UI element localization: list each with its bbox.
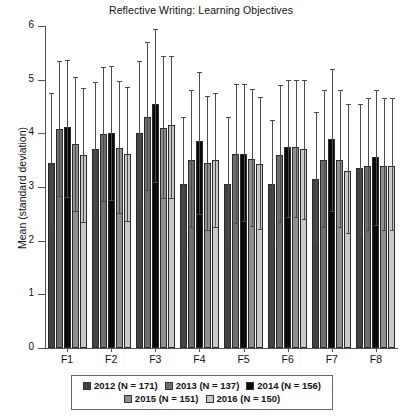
error-bar-cap: [278, 222, 283, 223]
error-bar: [59, 61, 60, 196]
legend-label: 2013 (N = 137): [176, 379, 240, 392]
error-bar-cap: [205, 96, 210, 97]
error-bar-cap: [270, 246, 275, 247]
error-bar-cap: [73, 211, 78, 212]
y-axis-tick-label: 0: [4, 341, 34, 352]
legend-label: 2014 (N = 156): [257, 379, 321, 392]
error-bar-cap: [81, 88, 86, 89]
legend-label: 2015 (N = 151): [135, 392, 199, 405]
error-bar-cap: [213, 227, 218, 228]
error-bar-cap: [286, 217, 291, 218]
error-bar: [384, 98, 385, 229]
error-bar: [103, 67, 104, 201]
error-bar-cap: [65, 60, 70, 61]
y-axis-tick-label: 5: [4, 73, 34, 84]
legend-item[interactable]: 2013 (N = 137): [165, 379, 240, 392]
error-bar: [280, 85, 281, 222]
x-axis-tick-label: F8: [356, 353, 396, 365]
y-axis-tick-label: 6: [4, 19, 34, 30]
error-bar-cap: [258, 97, 263, 98]
error-bar-cap: [169, 56, 174, 57]
error-bar-cap: [330, 211, 335, 212]
error-bar-cap: [137, 200, 142, 201]
error-bar-cap: [382, 98, 387, 99]
error-bar-cap: [197, 214, 202, 215]
error-bar-cap: [382, 230, 387, 231]
error-bar: [252, 89, 253, 226]
x-axis-tick: [155, 348, 156, 352]
legend-item[interactable]: 2014 (N = 156): [246, 379, 321, 392]
error-bar-cap: [73, 77, 78, 78]
error-bar: [51, 93, 52, 230]
x-axis-line: [45, 348, 398, 349]
x-axis-tick-label: F6: [268, 353, 308, 365]
legend-label: 2012 (N = 171): [94, 379, 158, 392]
error-bar-cap: [358, 233, 363, 234]
error-bar: [288, 80, 289, 217]
error-bar-cap: [93, 214, 98, 215]
y-axis-tick-label: 1: [4, 287, 34, 298]
error-bar-cap: [145, 42, 150, 43]
legend-item[interactable]: 2015 (N = 151): [124, 392, 199, 405]
error-bar-cap: [374, 90, 379, 91]
error-bar-cap: [145, 190, 150, 191]
x-axis-tick-label: F2: [91, 353, 131, 365]
error-bar: [340, 90, 341, 227]
error-bar: [244, 84, 245, 221]
x-axis-tick: [332, 348, 333, 352]
error-bar: [111, 66, 112, 200]
error-bar: [392, 98, 393, 229]
error-bar: [324, 90, 325, 227]
error-bar: [304, 80, 305, 220]
legend-swatch-icon: [206, 395, 214, 403]
x-axis-tick-label: F7: [312, 353, 352, 365]
error-bar: [171, 56, 172, 198]
error-bar-cap: [322, 90, 327, 91]
error-bar-cap: [234, 84, 239, 85]
x-axis-tick: [376, 348, 377, 352]
error-bar-cap: [49, 93, 54, 94]
error-bar: [119, 81, 120, 212]
y-axis-tick-label: 2: [4, 234, 34, 245]
error-bar-cap: [250, 89, 255, 90]
error-bar-cap: [49, 230, 54, 231]
error-bar-cap: [330, 69, 335, 70]
legend-swatch-icon: [246, 382, 254, 390]
y-axis-tick-label: 3: [4, 180, 34, 191]
legend-swatch-icon: [165, 382, 173, 390]
error-bar-cap: [242, 84, 247, 85]
error-bar: [83, 88, 84, 222]
chart-figure: Reflective Writing: Learning Objectives …: [0, 0, 402, 418]
error-bar: [75, 77, 76, 211]
error-bar-cap: [242, 221, 247, 222]
x-axis-tick: [67, 348, 68, 352]
y-axis-tick: [38, 241, 45, 242]
error-bar-cap: [213, 93, 218, 94]
error-bar-cap: [346, 104, 351, 105]
error-bar: [348, 104, 349, 233]
error-bar: [199, 72, 200, 214]
bar-group: [268, 26, 307, 348]
error-bar: [155, 29, 156, 182]
legend-item[interactable]: 2016 (N = 150): [206, 392, 281, 405]
bar-group: [180, 26, 219, 348]
error-bar-cap: [181, 117, 186, 118]
error-bar-cap: [366, 98, 371, 99]
error-bar: [139, 61, 140, 201]
error-bar: [360, 104, 361, 233]
bar-group: [312, 26, 351, 348]
legend-row: 2015 (N = 151)2016 (N = 150): [77, 392, 327, 405]
error-bar-cap: [137, 61, 142, 62]
x-axis-tick: [288, 348, 289, 352]
x-axis-tick: [199, 348, 200, 352]
error-bar-cap: [390, 230, 395, 231]
error-bar-cap: [278, 85, 283, 86]
bar-groups: [45, 26, 398, 348]
y-axis-tick: [38, 348, 45, 349]
error-bar-cap: [101, 67, 106, 68]
error-bar-cap: [189, 227, 194, 228]
error-bar-cap: [270, 120, 275, 121]
error-bar: [236, 84, 237, 224]
y-axis-tick: [38, 294, 45, 295]
legend-item[interactable]: 2012 (N = 171): [83, 379, 158, 392]
